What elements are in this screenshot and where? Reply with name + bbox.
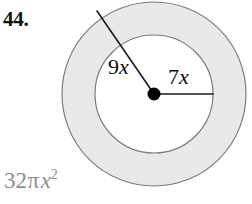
answer-expression: 32πx2 xyxy=(4,166,58,196)
answer-coefficient: 32 xyxy=(4,168,27,193)
nine-x-radius-label: 9x xyxy=(108,54,129,80)
problem-figure-panel: 44. 9x 7x 32πx2 xyxy=(0,0,252,204)
problem-number: 44. xyxy=(3,7,28,31)
answer-exponent: 2 xyxy=(51,167,58,182)
center-dot xyxy=(148,88,161,101)
answer-variable: x xyxy=(40,168,51,193)
seven-x-variable: x xyxy=(179,64,189,89)
pi-symbol: π xyxy=(27,168,40,193)
nine-x-variable: x xyxy=(119,54,129,79)
seven-x-radius-label: 7x xyxy=(168,64,189,90)
seven-x-digit: 7 xyxy=(168,64,179,89)
nine-x-digit: 9 xyxy=(108,54,119,79)
